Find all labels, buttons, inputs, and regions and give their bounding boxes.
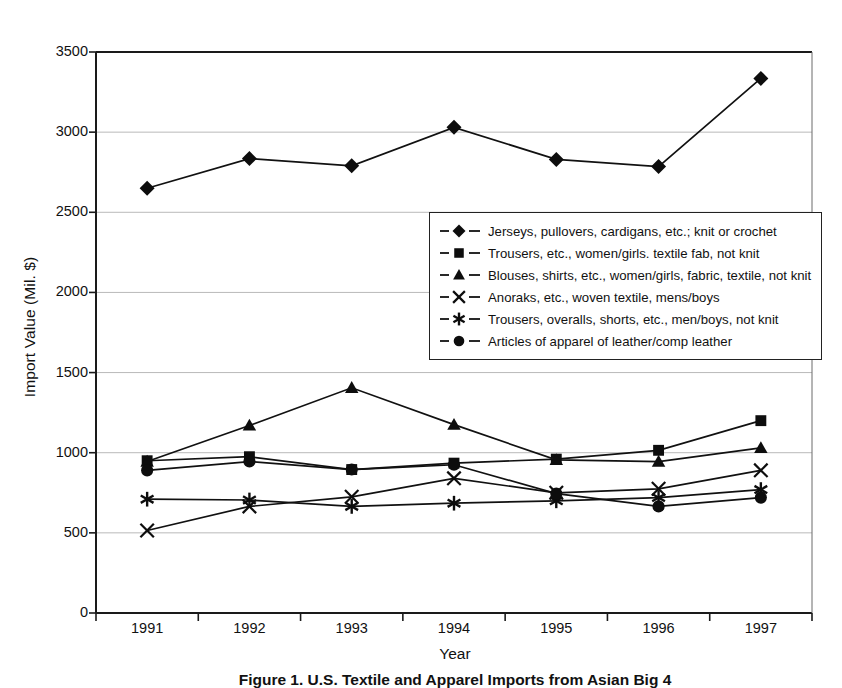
y-tick-label: 500	[28, 525, 88, 540]
circle-marker-icon	[438, 332, 484, 350]
legend-label: Blouses, shirts, etc., women/girls, fabr…	[484, 268, 811, 283]
legend-item[interactable]: Blouses, shirts, etc., women/girls, fabr…	[438, 264, 811, 286]
y-tick-label: 3500	[28, 44, 88, 59]
legend-item[interactable]: Trousers, etc., women/girls. textile fab…	[438, 242, 811, 264]
legend-item[interactable]: Trousers, overalls, shorts, etc., men/bo…	[438, 308, 811, 330]
x-axis-title: Year	[95, 645, 815, 663]
x-tick-label: 1997	[721, 620, 801, 636]
y-axis-tick-labels: 0500100015002000250030003500	[26, 0, 88, 688]
square-marker-icon	[438, 244, 484, 262]
x-tick-label: 1996	[619, 620, 699, 636]
legend-item[interactable]: Anoraks, etc., woven textile, mens/boys	[438, 286, 811, 308]
x-tick-label: 1991	[107, 620, 187, 636]
cross-marker-icon	[438, 288, 484, 306]
diamond-marker-icon	[438, 222, 484, 240]
legend-label: Articles of apparel of leather/comp leat…	[484, 334, 732, 349]
figure-caption: Figure 1. U.S. Textile and Apparel Impor…	[95, 671, 815, 688]
chart-figure: Import Value (Mil. $) 050010001500200025…	[0, 0, 842, 688]
data-series	[140, 381, 767, 467]
y-tick-label: 1500	[28, 365, 88, 380]
legend-label: Anoraks, etc., woven textile, mens/boys	[484, 290, 720, 305]
x-tick-label: 1994	[414, 620, 494, 636]
y-tick-label: 3000	[28, 124, 88, 139]
triangle-marker-icon	[438, 266, 484, 284]
legend-item[interactable]: Jerseys, pullovers, cardigans, etc.; kni…	[438, 220, 811, 242]
y-tick-label: 0	[28, 605, 88, 620]
y-tick-label: 2500	[28, 204, 88, 219]
chart-legend: Jerseys, pullovers, cardigans, etc.; kni…	[429, 212, 822, 360]
legend-label: Trousers, etc., women/girls. textile fab…	[484, 246, 759, 261]
legend-label: Trousers, overalls, shorts, etc., men/bo…	[484, 312, 778, 327]
legend-item[interactable]: Articles of apparel of leather/comp leat…	[438, 330, 811, 352]
x-tick-label: 1995	[516, 620, 596, 636]
x-tick-label: 1993	[312, 620, 392, 636]
data-series	[140, 71, 769, 196]
legend-label: Jerseys, pullovers, cardigans, etc.; kni…	[484, 224, 777, 239]
y-tick-label: 1000	[28, 445, 88, 460]
x-tick-label: 1992	[209, 620, 289, 636]
y-tick-label: 2000	[28, 284, 88, 299]
star-marker-icon	[438, 310, 484, 328]
